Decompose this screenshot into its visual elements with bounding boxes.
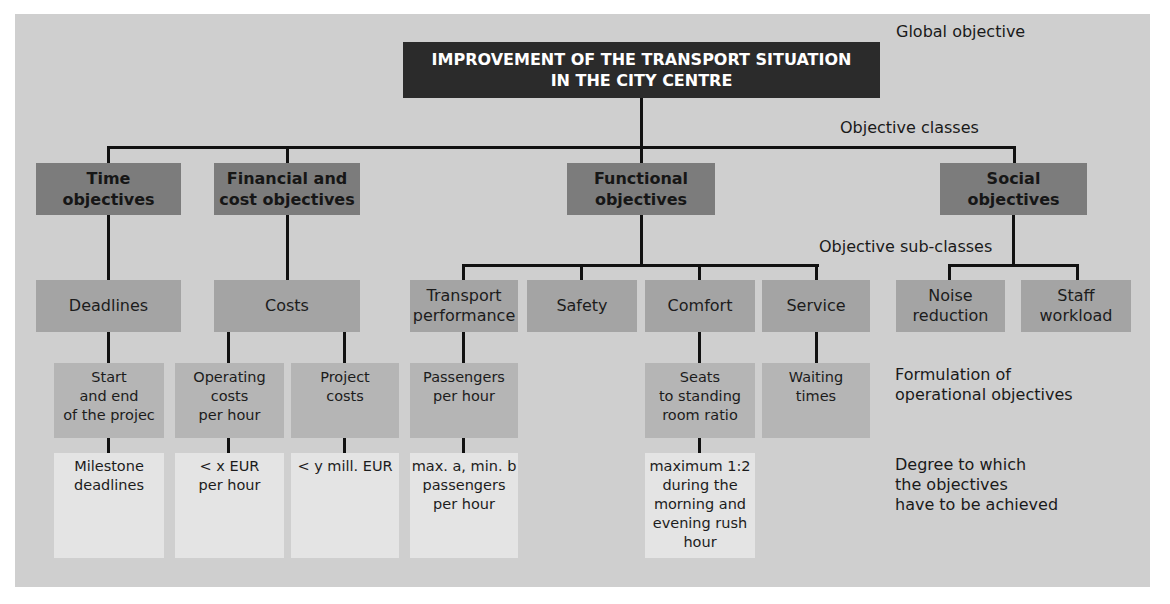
connector [640, 215, 643, 265]
connector [107, 215, 110, 280]
class-time-objectives: Time objectives [36, 163, 181, 215]
connector [640, 146, 643, 163]
connector [462, 332, 465, 363]
subclass-label: Staff workload [1040, 286, 1113, 326]
degree-operating-cost-limit: < x EUR per hour [175, 453, 284, 558]
subclass-label: Comfort [668, 296, 733, 316]
class-label: Financial and cost objectives [219, 168, 354, 210]
connector [227, 332, 230, 363]
connector [1013, 146, 1016, 163]
operational-project-costs: Project costs [291, 363, 399, 438]
connector [698, 332, 701, 363]
connector [948, 264, 951, 280]
degree-milestone-deadlines: Milestone deadlines [54, 453, 164, 558]
subclass-label: Costs [265, 296, 309, 316]
degree-label: max. a, min. b passengers per hour [412, 457, 517, 514]
connector [107, 146, 110, 163]
operational-label: Seats to standing room ratio [659, 368, 741, 425]
operational-label: Passengers per hour [423, 368, 505, 406]
degree-label: < y mill. EUR [297, 457, 392, 476]
degree-passenger-range: max. a, min. b passengers per hour [410, 453, 518, 558]
class-social-objectives: Social objectives [940, 163, 1087, 215]
connector [462, 264, 819, 267]
operational-seats-ratio: Seats to standing room ratio [645, 363, 755, 438]
connector [1076, 264, 1079, 280]
operational-operating-costs: Operating costs per hour [175, 363, 284, 438]
level-label-global: Global objective [896, 22, 1025, 42]
connector [286, 215, 289, 280]
connector [580, 264, 583, 280]
connector [640, 98, 643, 148]
level-label-operational: Formulation of operational objectives [895, 365, 1073, 405]
operational-waiting-times: Waiting times [762, 363, 870, 438]
global-objective-text: IMPROVEMENT OF THE TRANSPORT SITUATION I… [432, 49, 852, 91]
subclass-staff-workload: Staff workload [1021, 280, 1131, 332]
class-financial-objectives: Financial and cost objectives [214, 163, 360, 215]
class-functional-objectives: Functional objectives [567, 163, 715, 215]
connector [815, 332, 818, 363]
subclass-service: Service [762, 280, 870, 332]
class-label: Time objectives [62, 168, 154, 210]
connector [698, 438, 701, 453]
level-label-classes: Objective classes [840, 118, 979, 138]
operational-label: Operating costs per hour [193, 368, 266, 425]
subclass-label: Service [786, 296, 845, 316]
degree-project-cost-limit: < y mill. EUR [291, 453, 399, 558]
operational-label: Start and end of the projec [63, 368, 155, 425]
class-label: Functional objectives [594, 168, 688, 210]
connector [107, 438, 110, 453]
operational-start-end: Start and end of the projec [54, 363, 164, 438]
subclass-label: Deadlines [69, 296, 148, 316]
connector [107, 332, 110, 363]
subclass-label: Transport performance [413, 286, 515, 326]
subclass-costs: Costs [214, 280, 360, 332]
subclass-transport-performance: Transport performance [410, 280, 518, 332]
degree-label: Milestone deadlines [74, 457, 144, 495]
class-label: Social objectives [967, 168, 1059, 210]
connector [462, 438, 465, 453]
operational-label: Waiting times [789, 368, 843, 406]
connector [343, 332, 346, 363]
connector [815, 264, 818, 280]
connector [343, 438, 346, 453]
degree-seat-ratio: maximum 1:2 during the morning and eveni… [645, 453, 755, 558]
connector [227, 438, 230, 453]
subclass-label: Noise reduction [913, 286, 989, 326]
connector [1012, 215, 1015, 265]
degree-label: < x EUR per hour [199, 457, 261, 495]
subclass-safety: Safety [527, 280, 637, 332]
connector [286, 146, 289, 163]
operational-passengers: Passengers per hour [410, 363, 518, 438]
connector [698, 264, 701, 280]
connector [948, 264, 1079, 267]
subclass-noise-reduction: Noise reduction [896, 280, 1005, 332]
global-objective-box: IMPROVEMENT OF THE TRANSPORT SITUATION I… [403, 42, 880, 98]
connector [107, 146, 1016, 149]
subclass-label: Safety [556, 296, 607, 316]
degree-label: maximum 1:2 during the morning and eveni… [649, 457, 750, 552]
subclass-deadlines: Deadlines [36, 280, 181, 332]
level-label-subclasses: Objective sub-classes [819, 237, 992, 257]
operational-label: Project costs [320, 368, 370, 406]
connector [462, 264, 465, 280]
subclass-comfort: Comfort [645, 280, 755, 332]
level-label-degree: Degree to which the objectives have to b… [895, 455, 1058, 515]
